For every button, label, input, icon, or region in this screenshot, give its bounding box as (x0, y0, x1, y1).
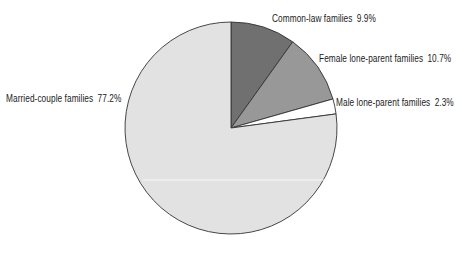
label-male-value: 2.3% (435, 96, 454, 108)
label-female-name: Female lone-parent families (319, 52, 423, 64)
label-female-value: 10.7% (427, 52, 451, 64)
pie-chart-plot (0, 0, 462, 254)
label-common-law-value: 9.9% (357, 12, 376, 24)
label-married-value: 77.2% (98, 92, 122, 104)
label-common-law-name: Common-law families (272, 12, 353, 24)
label-married-couple: Married-couple families77.2% (6, 92, 121, 104)
pie-chart: Common-law families9.9% Female lone-pare… (0, 0, 462, 254)
label-married-name: Married-couple families (6, 92, 93, 104)
label-male-name: Male lone-parent families (336, 96, 430, 108)
label-common-law: Common-law families9.9% (272, 12, 376, 24)
label-male-lone-parent: Male lone-parent families2.3% (336, 96, 454, 108)
label-female-lone-parent: Female lone-parent families10.7% (319, 52, 451, 64)
